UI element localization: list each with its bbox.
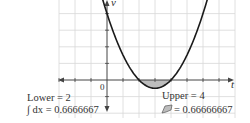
- grid: [59, 0, 235, 118]
- y-axis-label: v: [111, 0, 116, 8]
- integral-value-label: ∫ dx = 0.6666667: [26, 104, 99, 116]
- lower-bound-label: Lower = 2: [27, 92, 71, 103]
- area-icon: [162, 105, 172, 113]
- origin-label: 0: [100, 82, 105, 92]
- upper-bound-label: Upper = 4: [162, 90, 205, 101]
- axes: [58, 0, 234, 112]
- x-axis-label: t: [231, 78, 235, 90]
- chart: t v 0 Lower = 2 ∫ dx = 0.6666667 Upper =…: [0, 0, 250, 123]
- y-axis-arrow-down: [105, 106, 110, 112]
- y-axis-arrow-up: [105, 0, 110, 6]
- area-value-label: = 0.66666667: [174, 104, 232, 115]
